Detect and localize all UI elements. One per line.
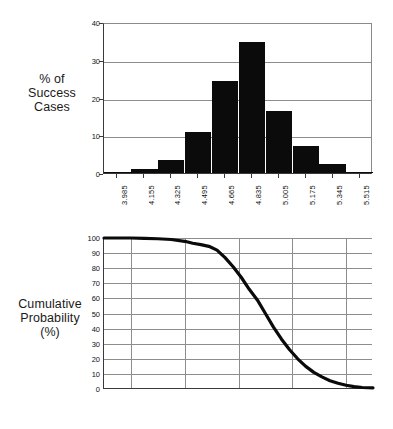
x-tick-mark [224, 174, 225, 178]
x-tick-mark [359, 174, 360, 178]
x-tick-label: 4.665 [227, 185, 236, 205]
x-tick-mark [278, 174, 279, 178]
x-tick-label: 5.005 [281, 185, 290, 205]
histogram-x-ticks: 3.9854.1554.3254.4954.6654.8355.0055.175… [0, 0, 393, 215]
x-tick-mark [116, 174, 117, 178]
cumulative-chart: Cumulative Probability (%) 0102030405060… [0, 215, 393, 429]
x-tick-label: 5.175 [308, 185, 317, 205]
x-tick-label: 3.985 [120, 185, 129, 205]
x-tick-mark [305, 174, 306, 178]
x-tick-label: 4.835 [254, 185, 263, 205]
x-tick-mark [143, 174, 144, 178]
x-tick-mark [170, 174, 171, 178]
cumulative-x-ticks: 3.94.14.34.44.64.85.05.25.35.55.7 [0, 215, 393, 429]
x-tick-label: 4.325 [173, 185, 182, 205]
x-tick-label: 5.345 [335, 185, 344, 205]
x-tick-label: 4.495 [200, 185, 209, 205]
x-tick-label: 4.155 [147, 185, 156, 205]
x-tick-mark [251, 174, 252, 178]
figure-root: % of Success Cases 40 30 20 10 0 [0, 0, 393, 429]
x-tick-mark [332, 174, 333, 178]
histogram-chart: % of Success Cases 40 30 20 10 0 [0, 0, 393, 215]
x-tick-label: 5.515 [362, 185, 371, 205]
x-tick-mark [197, 174, 198, 178]
